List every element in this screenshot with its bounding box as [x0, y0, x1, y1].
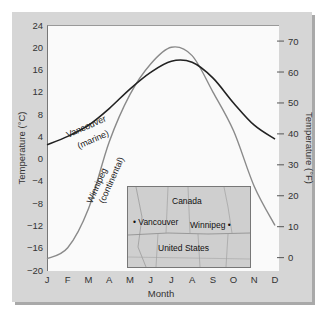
y-tick-left: −12 — [27, 220, 43, 231]
y-tick-left: 20 — [32, 42, 43, 53]
x-tick: O — [230, 274, 237, 285]
y-tick-left: 16 — [32, 64, 43, 75]
y-tick-right: 30 — [288, 159, 299, 170]
x-axis-label: Month — [148, 288, 174, 299]
y-tick-left: 4 — [38, 131, 43, 142]
y-tick-right: 50 — [288, 97, 299, 108]
x-tick: F — [65, 274, 71, 285]
x-tick: J — [148, 274, 153, 285]
y-axis-label-left: Temperature (°C) — [16, 112, 27, 185]
winnipeg-city-label: Winnipeg — [190, 220, 225, 230]
y-tick-left: 8 — [38, 109, 43, 120]
map-label-winnipeg: Winnipeg • — [190, 220, 231, 230]
y-tick-left: −20 — [27, 265, 43, 276]
y-tick-right: 70 — [288, 36, 299, 47]
y-axis-label-right: Temperature (°F) — [304, 112, 315, 184]
x-tick: A — [189, 274, 196, 285]
map-inset: Canada • Vancouver Winnipeg • United Sta… — [127, 186, 251, 268]
x-tick: A — [106, 274, 113, 285]
x-tick: M — [84, 274, 92, 285]
y-tick-right: 20 — [288, 190, 299, 201]
x-tick: J — [45, 274, 50, 285]
y-tick-right: 60 — [288, 67, 299, 78]
map-label-united-states: United States — [158, 243, 209, 253]
x-tick: M — [126, 274, 134, 285]
map-label-canada: Canada — [172, 196, 202, 206]
y-tick-right: 40 — [288, 128, 299, 139]
vancouver-city-label: Vancouver — [138, 217, 178, 227]
x-tick: D — [272, 274, 279, 285]
y-tick-left: 12 — [32, 86, 43, 97]
y-tick-left: 24 — [32, 20, 43, 31]
y-tick-left: −8 — [32, 198, 43, 209]
x-tick: N — [251, 274, 258, 285]
y-tick-right: 10 — [288, 221, 299, 232]
y-tick-left: −16 — [27, 242, 43, 253]
map-label-vancouver: • Vancouver — [133, 217, 178, 227]
y-tick-left: −4 — [32, 175, 43, 186]
y-tick-right: 0 — [288, 252, 293, 263]
x-tick: J — [169, 274, 174, 285]
y-tick-left: 0 — [38, 153, 43, 164]
x-tick: S — [210, 274, 216, 285]
temperature-chart: 24201612840−4−8−12−16−20706050403020100J… — [0, 0, 328, 318]
